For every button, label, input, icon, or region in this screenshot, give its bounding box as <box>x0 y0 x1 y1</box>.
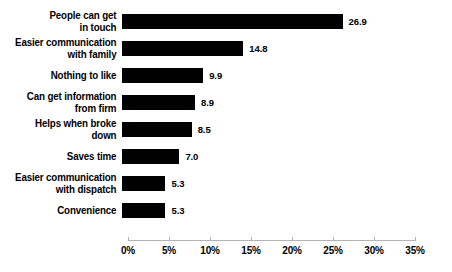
x-axis: 0%5%10%15%20%25%30%35% <box>128 240 416 241</box>
horizontal-bar-chart: 0%5%10%15%20%25%30%35% People can get in… <box>0 0 452 272</box>
bar <box>122 14 343 29</box>
bar-value-label: 8.5 <box>198 123 211 136</box>
bar-value-label: 5.3 <box>171 204 184 217</box>
bar <box>122 176 165 191</box>
axis-tick <box>210 237 211 241</box>
bar-value-label: 5.3 <box>171 177 184 190</box>
axis-tick <box>374 237 375 241</box>
bar-row: Easier communication with family14.8 <box>0 35 452 62</box>
category-label: Easier communication with dispatch <box>9 172 122 195</box>
bar <box>122 68 203 83</box>
category-label: Can get information from firm <box>9 91 122 114</box>
axis-tick-label: 20% <box>282 245 301 257</box>
bar-track: 8.9 <box>122 89 452 116</box>
category-label: Nothing to like <box>9 70 122 82</box>
bar-track: 7.0 <box>122 143 452 170</box>
bar-row: Can get information from firm8.9 <box>0 89 452 116</box>
bar-track: 8.5 <box>122 116 452 143</box>
category-label: Helps when broke down <box>9 118 122 141</box>
axis-tick <box>169 237 170 241</box>
category-label: Convenience <box>9 205 122 217</box>
bar-value-label: 9.9 <box>209 69 222 82</box>
bar-value-label: 26.9 <box>349 15 367 28</box>
bar-row: Saves time7.0 <box>0 143 452 170</box>
bar-track: 26.9 <box>122 8 452 35</box>
bar-row: Convenience5.3 <box>0 197 452 224</box>
axis-tick <box>292 237 293 241</box>
bar-row: Nothing to like9.9 <box>0 62 452 89</box>
axis-tick-label: 0% <box>121 245 135 257</box>
axis-tick <box>333 237 334 241</box>
bar-track: 14.8 <box>122 35 452 62</box>
bar-track: 5.3 <box>122 197 452 224</box>
bar-track: 5.3 <box>122 170 452 197</box>
axis-tick-label: 10% <box>200 245 219 257</box>
axis-tick-label: 30% <box>364 245 383 257</box>
bar-row: Helps when broke down8.5 <box>0 116 452 143</box>
category-label: Saves time <box>9 151 122 163</box>
bar-row: People can get in touch26.9 <box>0 8 452 35</box>
axis-tick <box>251 237 252 241</box>
bar <box>122 41 243 56</box>
axis-tick-label: 25% <box>323 245 342 257</box>
axis-tick <box>415 237 416 241</box>
axis-tick-label: 35% <box>405 245 424 257</box>
bar-track: 9.9 <box>122 62 452 89</box>
axis-tick-label: 5% <box>162 245 176 257</box>
bar-value-label: 7.0 <box>185 150 198 163</box>
bar-row: Easier communication with dispatch5.3 <box>0 170 452 197</box>
bar-value-label: 8.9 <box>201 96 214 109</box>
bar <box>122 149 179 164</box>
axis-tick-label: 15% <box>241 245 260 257</box>
category-label: Easier communication with family <box>9 37 122 60</box>
axis-tick <box>128 237 129 241</box>
bar <box>122 203 165 218</box>
bar-value-label: 14.8 <box>249 42 267 55</box>
bar <box>122 122 192 137</box>
category-label: People can get in touch <box>9 10 122 33</box>
bar <box>122 95 195 110</box>
